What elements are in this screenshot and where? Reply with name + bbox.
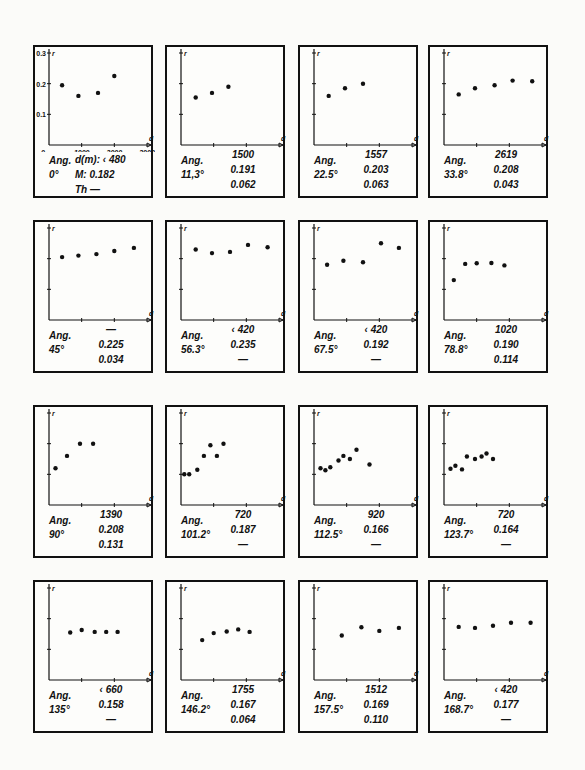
angle-value: 157.5° — [314, 704, 343, 715]
svg-text:r: r — [52, 50, 56, 57]
scatter-plot: rd — [430, 47, 550, 152]
data-point — [457, 625, 461, 629]
stat-th: 0.034 — [81, 352, 141, 367]
data-point — [247, 630, 251, 634]
scatter-plot: rd — [430, 582, 550, 687]
svg-text:1000: 1000 — [74, 149, 90, 152]
data-point — [453, 464, 457, 468]
data-point — [80, 628, 84, 632]
svg-text:r: r — [447, 585, 451, 592]
svg-text:d: d — [544, 310, 549, 317]
angle-label: Ang. — [444, 155, 466, 166]
data-point — [200, 638, 204, 642]
svg-text:d: d — [414, 670, 419, 677]
data-point — [225, 629, 229, 633]
data-point — [318, 466, 322, 470]
stat-m: 0.166 — [346, 522, 406, 537]
data-point — [465, 454, 469, 458]
data-point — [325, 263, 329, 267]
data-point — [341, 454, 345, 458]
svg-text:r: r — [184, 50, 188, 57]
stat-d: 720 — [476, 507, 536, 522]
svg-text:r: r — [184, 585, 188, 592]
svg-text:d: d — [544, 135, 549, 142]
svg-text:0: 0 — [41, 149, 45, 152]
stat-th: — — [346, 352, 406, 367]
data-point — [361, 82, 365, 86]
angle-label: Ang. — [49, 690, 71, 701]
data-point — [208, 443, 212, 447]
chart-panel: rdAng.123.7°7200.164— — [428, 405, 548, 558]
angle-value: 22.5° — [314, 169, 337, 180]
svg-text:d: d — [281, 135, 286, 142]
stat-m: 0.203 — [346, 162, 406, 177]
data-point — [397, 246, 401, 250]
stat-th: 0.114 — [476, 352, 536, 367]
stat-m: 0.235 — [213, 337, 273, 352]
stat-m: 0.158 — [81, 697, 141, 712]
angle-label: Ang. — [181, 155, 203, 166]
data-point — [460, 467, 464, 471]
angle-value: 78.8° — [444, 344, 467, 355]
svg-text:d: d — [281, 670, 286, 677]
data-point — [473, 86, 477, 90]
panel-statistics: 9200.166— — [346, 507, 406, 552]
panel-statistics: ‹ 4200.177— — [476, 682, 536, 727]
stat-th: 0.110 — [346, 712, 406, 727]
data-point — [91, 442, 95, 446]
stat-m: 0.208 — [81, 522, 141, 537]
panel-statistics: ‹ 4200.192— — [346, 322, 406, 367]
chart-panel: rdAng.101.2°7200.187— — [165, 405, 285, 558]
data-point — [491, 624, 495, 628]
stat-th: — — [213, 537, 273, 552]
angle-value: 0° — [49, 169, 59, 180]
svg-text:0.1: 0.1 — [36, 111, 46, 118]
data-point — [484, 451, 488, 455]
stat-m: 0.167 — [213, 697, 273, 712]
angle-value: 146.2° — [181, 704, 210, 715]
angle-label: Ang. — [49, 155, 71, 166]
data-point — [473, 626, 477, 630]
chart-panel: rdAng.67.5°‹ 4200.192— — [298, 220, 418, 373]
stat-m: 0.192 — [346, 337, 406, 352]
data-point — [473, 457, 477, 461]
data-point — [327, 94, 331, 98]
data-point — [328, 465, 332, 469]
data-point — [528, 621, 532, 625]
svg-text:r: r — [447, 225, 451, 232]
svg-text:d: d — [414, 495, 419, 502]
stat-d: 1755 — [213, 682, 273, 697]
svg-text:r: r — [317, 410, 321, 417]
angle-label: Ang. — [314, 330, 336, 341]
stat-d: 1512 — [346, 682, 406, 697]
panel-statistics: ‹ 6600.158— — [81, 682, 141, 727]
stat-m: 0.177 — [476, 697, 536, 712]
angle-value: 45° — [49, 344, 64, 355]
chart-panel: rdAng.22.5°15570.2030.063 — [298, 45, 418, 198]
chart-panel: rd0.10.20.30100020003000Ang.0°d(m): ‹ 48… — [33, 45, 153, 198]
svg-text:r: r — [52, 585, 56, 592]
stat-th: 0.062 — [213, 177, 273, 192]
data-point — [491, 457, 495, 461]
panel-statistics: 7200.164— — [476, 507, 536, 552]
data-point — [65, 454, 69, 458]
stat-m: 0.187 — [213, 522, 273, 537]
angle-value: 33.8° — [444, 169, 467, 180]
chart-panel: rdAng.33.8°26190.2080.043 — [428, 45, 548, 198]
stat-m: 0.169 — [346, 697, 406, 712]
stat-d: 1020 — [476, 322, 536, 337]
stat-m: 0.164 — [476, 522, 536, 537]
scatter-plot: rd — [35, 407, 155, 512]
data-point — [104, 630, 108, 634]
stat-d: 1557 — [346, 147, 406, 162]
svg-text:d: d — [544, 670, 549, 677]
stat-th: — — [476, 712, 536, 727]
stat-d: ‹ 660 — [81, 682, 141, 697]
data-point — [182, 472, 186, 476]
angle-label: Ang. — [444, 330, 466, 341]
scatter-plot: rd — [167, 407, 287, 512]
data-point — [194, 95, 198, 99]
stat-d: ‹ 420 — [213, 322, 273, 337]
chart-panel: rdAng.78.8°10200.1900.114 — [428, 220, 548, 373]
svg-text:r: r — [447, 410, 451, 417]
